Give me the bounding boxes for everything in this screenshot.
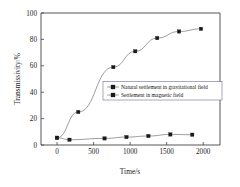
data-point	[103, 137, 106, 140]
data-point	[199, 27, 202, 30]
data-point	[155, 36, 158, 39]
data-point	[125, 135, 128, 138]
data-point	[112, 65, 115, 68]
legend-marker-1	[111, 93, 115, 97]
x-tick-label-500: 500	[88, 148, 99, 156]
x-tick-label-2000: 2000	[196, 148, 211, 156]
legend-marker-0	[111, 85, 115, 89]
data-point	[169, 133, 172, 136]
data-point	[191, 133, 194, 136]
y-tick-label-60: 60	[30, 62, 38, 70]
data-point	[55, 136, 58, 139]
y-tick-label-40: 40	[30, 89, 38, 97]
legend: Natural settlement in gravitational fiel…	[103, 82, 222, 101]
y-tick-label-80: 80	[30, 36, 38, 44]
data-point	[134, 50, 137, 53]
x-tick-label-0: 0	[55, 148, 59, 156]
data-point	[68, 138, 71, 141]
x-tick-label-1500: 1500	[159, 148, 174, 156]
series-1	[55, 133, 194, 142]
y-tick-label-100: 100	[26, 10, 37, 18]
y-tick-label-0: 0	[33, 142, 37, 150]
data-point	[77, 110, 80, 113]
x-axis-ticks: 0500100015002000	[55, 142, 211, 156]
x-tick-label-1000: 1000	[123, 148, 138, 156]
legend-label-1: Settlement in magnetic field	[121, 92, 183, 98]
chart-canvas: 020406080100 0500100015002000 Time/s Tra…	[0, 0, 240, 187]
data-point	[177, 30, 180, 33]
y-tick-label-20: 20	[30, 115, 38, 123]
legend-label-0: Natural settlement in gravitational fiel…	[121, 84, 208, 90]
chart-figure: 020406080100 0500100015002000 Time/s Tra…	[0, 0, 240, 187]
y-axis-title: Transmissivity/%	[13, 53, 22, 105]
x-axis-title: Time/s	[120, 167, 140, 176]
data-point	[147, 134, 150, 137]
